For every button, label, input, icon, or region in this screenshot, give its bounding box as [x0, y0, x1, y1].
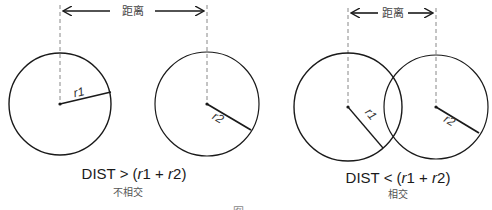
panel-non-intersecting: 距离 r1 r2 DIST > (r1 + r2) 不相交 [9, 4, 259, 198]
caption-intersecting: 相交 [388, 188, 408, 200]
radius-line-1 [60, 92, 111, 104]
distance-label: 距离 [122, 4, 144, 18]
panel-intersecting: 距离 r1 r2 DIST < (r1 + r2) 相交 [294, 6, 488, 200]
figure-mark: 图 [233, 206, 244, 210]
formula-non-intersecting: DIST > (r1 + r2) [82, 165, 187, 182]
radius-label-1: r1 [362, 106, 380, 123]
radius-line-2 [436, 107, 479, 133]
radius-label-1: r1 [72, 84, 86, 100]
distance-label: 距离 [382, 6, 404, 20]
caption-non-intersecting: 不相交 [113, 186, 143, 198]
radius-label-2: r2 [210, 109, 227, 127]
formula-intersecting: DIST < (r1 + r2) [346, 169, 451, 186]
circle-collision-diagram: 距离 r1 r2 DIST > (r1 + r2) 不相交 距离 r1 r2 D… [0, 0, 492, 210]
radius-label-2: r2 [441, 112, 458, 130]
